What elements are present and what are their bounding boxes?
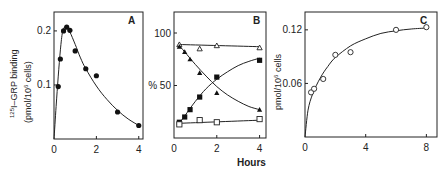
data-point-filled-square (187, 107, 192, 112)
data-point-filled-square (214, 75, 219, 80)
data-point-filled-circle (73, 48, 78, 53)
data-point-open-square (197, 118, 202, 123)
panel-a: 0240.10.2 (37, 12, 143, 155)
y-tick-label: 0.06 (283, 78, 303, 89)
x-tick-label: 4 (257, 143, 263, 154)
data-point-open-circle (348, 50, 353, 55)
data-point-open-triangle (257, 45, 262, 50)
x-tick-label: 4 (136, 144, 142, 155)
data-point-filled-circle (83, 66, 88, 71)
panel-b-letter: B (253, 15, 260, 26)
data-point-open-circle (333, 52, 338, 57)
panel-b: 024% 50100 (148, 12, 266, 154)
panel-c: 0480.060.12 (283, 12, 437, 153)
data-point-filled-circle (56, 84, 61, 89)
data-point-filled-circle (58, 56, 63, 61)
data-point-filled-triangle (187, 57, 192, 62)
fit-curve (305, 28, 426, 137)
y-tick-label: 0.1 (37, 79, 51, 90)
data-point-filled-square (182, 114, 187, 119)
data-point-filled-square (197, 94, 202, 99)
y-tick-label: 0.2 (37, 25, 51, 36)
y-tick-label: 0.12 (283, 24, 303, 35)
data-point-open-circle (393, 27, 398, 32)
fit-curve (54, 27, 139, 139)
data-point-filled-circle (67, 28, 72, 33)
data-point-filled-circle (94, 73, 99, 78)
hours-label: Hours (237, 157, 266, 168)
x-tick-label: 0 (171, 143, 177, 154)
y-tick-label: % 50 (148, 80, 171, 91)
data-point-filled-triangle (214, 90, 219, 95)
data-point-open-circle (312, 86, 317, 91)
data-point-filled-square (257, 58, 262, 63)
plot-frame (174, 12, 266, 138)
panel-a-letter: A (128, 15, 135, 26)
x-tick-label: 0 (302, 142, 308, 153)
data-point-filled-circle (115, 109, 120, 114)
x-tick-label: 0 (51, 144, 57, 155)
fit-curve-filled-square (179, 58, 259, 123)
data-point-open-circle (321, 76, 326, 81)
panel-a-ylabel-line1: 125I–GRP binding (9, 50, 19, 118)
panel-c-letter: C (420, 15, 427, 26)
fit-curve-open-triangle (179, 45, 259, 47)
panel-a-ylabel-line2: (pmol/106 cells) (23, 61, 33, 123)
x-tick-label: 4 (363, 142, 369, 153)
data-point-open-square (257, 117, 262, 122)
panel-c-ylabel: pmol/106 cells (273, 54, 283, 110)
data-point-open-square (177, 122, 182, 127)
x-tick-label: 8 (424, 142, 430, 153)
figure: 0240.10.2 125I–GRP binding (pmol/106 cel… (0, 0, 444, 172)
x-tick-label: 2 (214, 143, 220, 154)
data-point-open-square (214, 120, 219, 125)
chart-canvas: 0240.10.2 125I–GRP binding (pmol/106 cel… (0, 0, 444, 172)
y-tick-label: 100 (154, 28, 171, 39)
x-tick-label: 2 (94, 144, 100, 155)
plot-frame (305, 12, 437, 137)
data-point-filled-circle (136, 123, 141, 128)
data-point-open-triangle (197, 46, 202, 51)
